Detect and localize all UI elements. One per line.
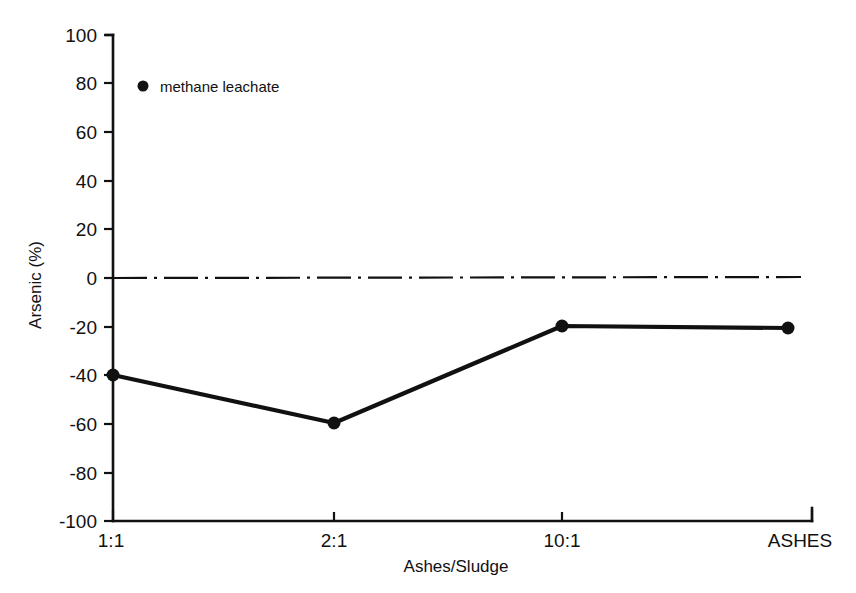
y-axis-ticks: [104, 35, 113, 521]
data-point-1-1: [107, 369, 120, 382]
y-tick-label-40: 40: [76, 171, 97, 192]
chart-figure: 100 80 60 40 20 0 -20 -40 -60 -80 -100 1…: [0, 0, 856, 593]
x-tick-label-1-1: 1:1: [98, 530, 124, 551]
series-line-methane-leachate: [113, 326, 788, 423]
data-point-10-1: [556, 320, 569, 333]
zero-reference-line: [113, 277, 801, 278]
x-tick-label-10-1: 10:1: [544, 530, 581, 551]
data-point-ashes: [782, 322, 795, 335]
y-tick-label-minus100: -100: [59, 511, 97, 532]
chart-legend: methane leachate: [138, 78, 280, 95]
data-point-2-1: [328, 417, 341, 430]
y-tick-label-0: 0: [86, 268, 97, 289]
y-tick-label-minus20: -20: [70, 317, 97, 338]
line-chart-plot: 100 80 60 40 20 0 -20 -40 -60 -80 -100 1…: [0, 0, 856, 593]
y-tick-label-80: 80: [76, 73, 97, 94]
x-axis-title: Ashes/Sludge: [404, 557, 509, 576]
y-tick-label-minus80: -80: [70, 463, 97, 484]
y-axis-tick-labels: 100 80 60 40 20 0 -20 -40 -60 -80 -100: [59, 25, 97, 532]
x-axis-tick-labels: 1:1 2:1 10:1 ASHES: [98, 530, 832, 551]
legend-entry-label: methane leachate: [160, 78, 279, 95]
x-tick-label-ashes: ASHES: [768, 530, 832, 551]
x-tick-label-2-1: 2:1: [321, 530, 347, 551]
series-methane-leachate: [107, 320, 795, 430]
x-axis-ticks: [113, 510, 812, 521]
y-tick-label-minus40: -40: [70, 365, 97, 386]
y-tick-label-minus60: -60: [70, 414, 97, 435]
y-tick-label-100: 100: [65, 25, 97, 46]
y-tick-label-60: 60: [76, 122, 97, 143]
y-axis-title: Arsenic (%): [26, 241, 45, 329]
legend-marker-icon: [138, 81, 149, 92]
y-tick-label-20: 20: [76, 219, 97, 240]
